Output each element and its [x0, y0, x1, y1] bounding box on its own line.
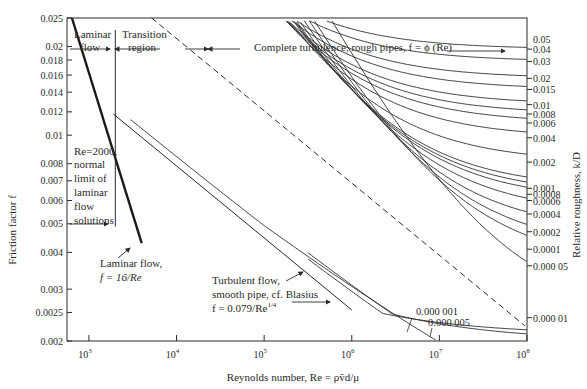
x-tick-label: 104	[166, 347, 180, 360]
roughness-curve-small	[308, 253, 527, 334]
roughness-tick-label: 0.015	[533, 84, 556, 95]
x-tick-label: 106	[341, 347, 355, 360]
x-tick-label: 108	[516, 347, 530, 360]
re2000-label-2: normal	[74, 158, 105, 170]
re2000-label-4: laminar	[74, 186, 108, 198]
laminar-region-label-2: flow	[80, 41, 100, 53]
y-tick-label: 0.02	[46, 41, 64, 52]
roughness-label-0.000001: 0.000 001	[416, 306, 458, 317]
region-annotations: Laminar flow Transition region Complete …	[74, 28, 470, 328]
re2000-label-1: Re=2000,	[74, 145, 117, 157]
roughness-tick-label: 0.002	[533, 157, 556, 168]
blasius-label-3: f = 0.079/Re1/4	[212, 301, 277, 314]
y-tick-label: 0.008	[41, 158, 64, 169]
roughness-curves	[287, 21, 527, 334]
roughness-tick-label: 0.000 01	[533, 313, 568, 324]
y-tick-label: 0.012	[41, 106, 64, 117]
roughness-tick-label: 0.004	[533, 133, 556, 144]
laminar-flow-label-1: Laminar flow,	[100, 257, 162, 269]
re2000-label-5: flow	[74, 200, 94, 212]
re2000-label-3: limit of	[74, 172, 107, 184]
smooth-pipe-curve	[131, 120, 436, 340]
laminar-region-label: Laminar	[74, 28, 112, 40]
y-tick-label: 0.018	[41, 55, 64, 66]
roughness-axis-label: Relative roughness, k/D	[570, 152, 582, 258]
roughness-axis-ticks: 0.050.040.030.020.0150.010.0080.0060.004…	[527, 34, 568, 324]
y-axis-label: Friction factor f	[6, 195, 18, 265]
transition-region-label: Transition	[122, 28, 167, 40]
roughness-tick-label: 0.000 05	[533, 261, 568, 272]
roughness-tick-label: 0.02	[533, 73, 551, 84]
roughness-tick-label: 0.0004	[533, 209, 561, 220]
y-tick-label: 0.007	[41, 175, 64, 186]
roughness-tick-label: 0.006	[533, 118, 556, 129]
roughness-0.000005-pointer	[430, 328, 432, 337]
roughness-label-0.000005: 0.000 005	[428, 317, 470, 328]
x-tick-label: 105	[253, 347, 267, 360]
y-tick-label: 0.025	[41, 13, 64, 24]
roughness-curve-small	[308, 259, 527, 330]
laminar-flow-label-2: f = 16/Re	[100, 271, 142, 283]
y-tick-label: 0.0025	[36, 307, 64, 318]
y-tick-label: 0.002	[41, 336, 64, 347]
y-tick-label: 0.005	[41, 218, 64, 229]
y-tick-label: 0.014	[41, 87, 64, 98]
y-tick-label: 0.003	[41, 284, 64, 295]
x-axis-ticks: 103104105106107108	[78, 335, 530, 360]
x-axis-label: Reynolds number, Re = ρv̄d/μ	[227, 371, 359, 383]
transition-region-label-2: region	[128, 41, 157, 53]
roughness-tick-label: 0.0002	[533, 227, 561, 238]
moody-chart: 0.0250.020.0180.0160.0140.0120.010.0080.…	[0, 0, 587, 389]
y-tick-label: 0.004	[41, 247, 64, 258]
y-tick-label: 0.006	[41, 195, 64, 206]
x-tick-label: 107	[429, 347, 443, 360]
blasius-arrow-1	[286, 272, 303, 281]
roughness-tick-label: 0.0001	[533, 244, 561, 255]
blasius-label-1: Turbulent flow,	[212, 274, 280, 286]
roughness-curve	[332, 21, 527, 261]
y-tick-label: 0.01	[46, 130, 64, 141]
roughness-tick-label: 0.03	[533, 56, 551, 67]
roughness-tick-label: 0.0006	[533, 196, 561, 207]
complete-turbulence-label: Complete turbulence, rough pipes, f = ϕ …	[254, 41, 452, 54]
x-tick-label: 103	[78, 347, 92, 360]
blasius-label-2: smooth pipe, cf. Blasius	[212, 288, 318, 300]
y-tick-label: 0.016	[41, 70, 64, 81]
roughness-tick-label: 0.04	[533, 44, 551, 55]
